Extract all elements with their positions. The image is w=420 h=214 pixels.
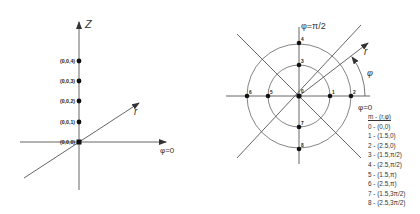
r-vector xyxy=(299,43,368,96)
legend-header: m - (r,φ) xyxy=(368,112,405,122)
r-axis-label: r xyxy=(134,106,138,117)
legend-item: 5 - (1.5,π) xyxy=(368,170,405,180)
point-label: (0,0,3) xyxy=(60,78,75,84)
cylindrical-coordinates-figure: Z r φ=0 (0,0,4) (0,0,3) (0,0,2) (0,0,1) … xyxy=(0,0,420,214)
point-label: (0,0,2) xyxy=(60,98,75,104)
top-axis-label: φ=π/2 xyxy=(301,21,326,31)
point-label: 2 xyxy=(353,90,356,95)
point-label: (0,0,1) xyxy=(60,119,75,125)
point-label: 0 xyxy=(301,89,304,94)
point-label: 5 xyxy=(270,90,273,95)
legend-item: 3 - (1.5,π/2) xyxy=(368,150,405,160)
point-label: 1 xyxy=(332,90,335,95)
legend-item: 4 - (2.5,π/2) xyxy=(368,160,405,170)
legend-item: 6 - (2.5,π) xyxy=(368,179,405,189)
point-label: (0,0,0) xyxy=(60,139,75,145)
point-0-0-1 xyxy=(77,120,82,125)
legend-item: 0 - (0,0) xyxy=(368,122,405,132)
r-vector-label: r xyxy=(364,46,368,57)
point-0-0-2 xyxy=(77,99,82,104)
polar-point-labels: 0 1 2 3 4 5 6 7 8 xyxy=(249,37,356,148)
phi-angle-label: φ xyxy=(367,68,373,78)
z-point-labels: (0,0,4) (0,0,3) (0,0,2) (0,0,1) (0,0,0) xyxy=(60,58,75,145)
point-legend: m - (r,φ) 0 - (0,0) 1 - (1.5,0) 2 - (2.5… xyxy=(368,112,405,208)
point-0-0-4 xyxy=(77,59,82,64)
phi-zero-label: φ=0 xyxy=(358,103,373,112)
right-polar-diagram: φ=π/2 r φ φ=0 0 1 2 3 4 5 6 7 8 xyxy=(226,21,373,164)
point-0-0-0 xyxy=(77,140,82,145)
point-label: 8 xyxy=(301,143,304,148)
legend-item: 8 - (2.5,3π/2) xyxy=(368,198,405,208)
z-axis-label: Z xyxy=(84,18,93,30)
phi-zero-label: φ=0 xyxy=(160,146,175,155)
point-label: (0,0,4) xyxy=(60,58,75,64)
point-0 xyxy=(296,93,301,98)
point-label: 6 xyxy=(249,90,252,95)
legend-item: 7 - (1.5,3π/2) xyxy=(368,189,405,199)
legend-item: 2 - (2.5,0) xyxy=(368,141,405,151)
legend-item: 1 - (1.5,0) xyxy=(368,131,405,141)
point-0-0-3 xyxy=(77,79,82,84)
point-label: 3 xyxy=(301,59,304,64)
point-label: 4 xyxy=(301,37,304,42)
point-label: 7 xyxy=(301,121,304,126)
left-3d-axes-diagram: Z r φ=0 (0,0,4) (0,0,3) (0,0,2) (0,0,1) … xyxy=(20,18,175,190)
